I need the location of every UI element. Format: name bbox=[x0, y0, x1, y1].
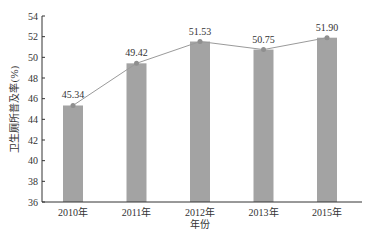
data-label: 45.34 bbox=[62, 89, 85, 100]
y-tick-label: 54 bbox=[28, 11, 38, 22]
y-tick-label: 42 bbox=[28, 135, 38, 146]
y-tick-label: 50 bbox=[28, 52, 38, 63]
line-marker bbox=[261, 47, 266, 52]
y-axis-title: 卫生厕所普及率(%) bbox=[8, 65, 20, 152]
bars bbox=[63, 38, 337, 202]
data-label: 51.90 bbox=[316, 22, 339, 33]
bar bbox=[127, 63, 147, 202]
bar bbox=[317, 38, 337, 202]
data-label: 49.42 bbox=[125, 47, 148, 58]
y-tick-label: 48 bbox=[28, 73, 38, 84]
data-label: 51.53 bbox=[189, 26, 212, 37]
y-tick-label: 36 bbox=[28, 197, 38, 208]
line-marker bbox=[71, 103, 76, 108]
x-tick-label: 2015年 bbox=[312, 206, 342, 218]
x-tick-label: 2013年 bbox=[249, 206, 279, 218]
y-tick-label: 38 bbox=[28, 176, 38, 187]
x-axis: 2010年2011年2012年2013年2015年 bbox=[42, 202, 362, 218]
bar bbox=[63, 105, 83, 202]
line-marker bbox=[134, 61, 139, 66]
chart: 36384042444648505254 45.3449.4251.5350.7… bbox=[0, 0, 369, 239]
line-marker bbox=[325, 35, 330, 40]
line-marker bbox=[198, 39, 203, 44]
y-axis: 36384042444648505254 bbox=[28, 11, 45, 208]
x-tick-label: 2010年 bbox=[58, 206, 88, 218]
y-tick-label: 44 bbox=[28, 114, 38, 125]
bar bbox=[254, 50, 274, 202]
data-label: 50.75 bbox=[252, 34, 275, 45]
y-tick-label: 40 bbox=[28, 155, 38, 166]
x-axis-title: 年份 bbox=[190, 218, 210, 230]
bar bbox=[190, 42, 210, 202]
x-tick-label: 2011年 bbox=[122, 206, 152, 218]
y-tick-label: 52 bbox=[28, 31, 38, 42]
x-tick-label: 2012年 bbox=[185, 206, 215, 218]
y-tick-label: 46 bbox=[28, 93, 38, 104]
